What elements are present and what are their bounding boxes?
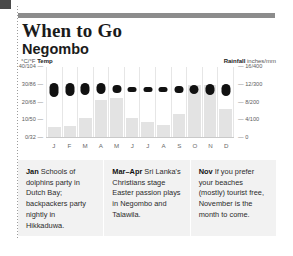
chart-column	[172, 67, 188, 138]
temperature-range-marker	[190, 85, 199, 94]
rainfall-bar	[110, 98, 123, 138]
header-rule	[18, 13, 275, 18]
temperature-range-marker	[206, 84, 215, 96]
caption-text: Schools of dolphins party in Dutch Bay; …	[26, 167, 86, 230]
rainfall-bar	[157, 125, 170, 138]
caption-panel: Jan Schools of dolphins party in Dutch B…	[18, 160, 276, 236]
chart-column	[63, 67, 79, 138]
temperature-range-marker	[221, 84, 230, 96]
caption-item: Mar–Apr Sri Lanka's Christians stage Eas…	[104, 160, 190, 236]
chart-column	[109, 67, 125, 138]
rain-tick-4: — 0	[238, 135, 248, 141]
rainfall-bar	[173, 114, 186, 138]
chart-column	[125, 67, 141, 138]
month-label: J	[124, 142, 140, 149]
chart-column	[203, 67, 219, 138]
page-subtitle: Negombo	[22, 41, 89, 57]
temp-tick-4: 0/32 —	[25, 135, 43, 141]
month-label: M	[77, 142, 93, 149]
chart-column	[78, 67, 94, 138]
caption-item: Nov If you prefer your beaches (mostly) …	[191, 160, 276, 236]
chart-columns	[46, 67, 234, 138]
plot-area: 40/104 — 30/86 — 20/68 — 10/50 — 0/32 — …	[46, 67, 234, 138]
month-label: F	[62, 142, 78, 149]
caption-month: Mar–Apr	[112, 167, 142, 176]
temp-tick-2: 20/68 —	[22, 100, 43, 106]
rain-tick-3: — 4/100	[238, 117, 259, 123]
month-label: M	[109, 142, 125, 149]
chart-column	[140, 67, 156, 138]
caption-item: Jan Schools of dolphins party in Dutch B…	[18, 160, 104, 236]
rain-tick-0: — 16/400	[238, 64, 262, 70]
month-label: N	[203, 142, 219, 149]
temperature-range-marker	[159, 87, 168, 92]
rainfall-bar	[95, 100, 108, 138]
chart-column	[187, 67, 203, 138]
temp-tick-0: 40/104 —	[19, 64, 43, 70]
month-label: O	[187, 142, 203, 149]
temperature-range-marker	[50, 83, 59, 97]
temp-tick-1: 30/86 —	[22, 82, 43, 88]
caption-month: Jan	[26, 167, 39, 176]
temperature-range-marker	[174, 86, 183, 93]
rainfall-bar	[219, 109, 232, 138]
rainfall-bar	[79, 118, 92, 138]
page-title: When to Go	[22, 20, 122, 42]
rainfall-bar	[141, 122, 154, 138]
chart-baseline	[46, 137, 234, 138]
month-label: J	[46, 142, 62, 149]
temperature-range-marker	[143, 87, 152, 91]
temperature-range-marker	[97, 83, 106, 94]
chart-column	[218, 67, 234, 138]
rain-tick-1: — 12/300	[238, 82, 262, 88]
chart-column	[156, 67, 172, 138]
temperature-range-marker	[112, 85, 121, 93]
month-label: D	[218, 142, 234, 149]
corner-mark	[0, 0, 11, 9]
chart-column	[46, 67, 63, 138]
month-label: A	[156, 142, 172, 149]
rainfall-bar	[126, 118, 139, 138]
month-label: S	[171, 142, 187, 149]
page-canvas: When to Go Negombo °C/°F Temp Rainfall i…	[0, 0, 293, 256]
month-label: A	[93, 142, 109, 149]
temp-tick-3: 10/50 —	[22, 117, 43, 123]
month-label: J	[140, 142, 156, 149]
chart-column	[94, 67, 110, 138]
rain-tick-2: — 8/200	[238, 100, 259, 106]
month-axis: JFMAMJJASOND	[46, 142, 234, 149]
climate-chart: °C/°F Temp Rainfall inches/mm 40/104 — 3…	[18, 58, 276, 154]
caption-month: Nov	[199, 167, 213, 176]
temperature-range-marker	[128, 87, 137, 92]
temperature-range-marker	[81, 83, 90, 95]
temperature-range-marker	[65, 83, 74, 96]
